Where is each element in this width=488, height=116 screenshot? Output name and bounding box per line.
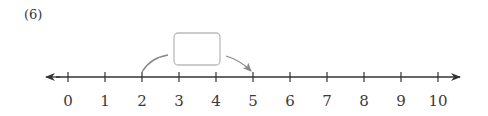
jump-arc-right-arrow	[226, 56, 251, 71]
tick-label: 2	[137, 92, 147, 110]
tick-label: 6	[285, 92, 295, 110]
tick-labels: 012345678910	[63, 92, 447, 110]
tick-label: 3	[174, 92, 184, 110]
tick-label: 9	[396, 92, 406, 110]
answer-box[interactable]	[174, 33, 220, 65]
tick-label: 10	[428, 92, 447, 110]
tick-label: 5	[248, 92, 258, 110]
tick-label: 8	[359, 92, 369, 110]
tick-label: 0	[63, 92, 73, 110]
tick-label: 7	[322, 92, 332, 110]
jump-arc-left	[142, 55, 168, 72]
tick-label: 1	[100, 92, 110, 110]
number-line-diagram: 012345678910	[0, 0, 488, 116]
tick-label: 4	[211, 92, 221, 110]
